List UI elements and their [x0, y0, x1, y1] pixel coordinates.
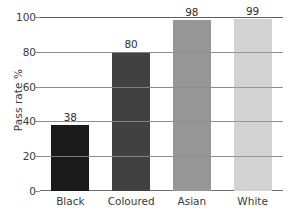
gridline-overlay — [40, 17, 283, 18]
bar — [234, 19, 272, 191]
bar — [173, 20, 211, 191]
y-axis-tick-label: 80 — [10, 47, 36, 58]
y-axis-tick-labels: 020406080100 — [4, 0, 36, 219]
x-axis-category-labels: BlackColouredAsianWhite — [40, 196, 283, 214]
y-axis-tick-label: 0 — [10, 186, 36, 197]
gridline-overlay — [40, 52, 283, 53]
y-axis-tick-label: 20 — [10, 151, 36, 162]
y-axis-tick-label: 40 — [10, 116, 36, 127]
gridline-overlay — [40, 121, 283, 122]
gridline-overlay — [40, 87, 283, 88]
y-axis-tick-mark — [35, 191, 40, 192]
x-axis-category-label: White — [213, 196, 292, 207]
bar-value-label: 99 — [233, 6, 273, 17]
y-axis-tick-label: 60 — [10, 82, 36, 93]
y-axis-tick-label: 100 — [10, 12, 36, 23]
bar — [51, 125, 89, 191]
bar-chart: Pass rate % 020406080100 38809899 BlackC… — [0, 0, 292, 219]
plot-area: 38809899 — [40, 17, 283, 191]
bar-value-label: 80 — [111, 39, 151, 50]
gridline-overlay — [40, 156, 283, 157]
